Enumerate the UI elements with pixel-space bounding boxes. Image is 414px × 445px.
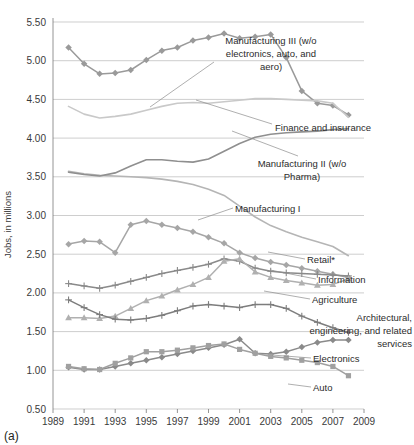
y-tick-label: 1.00 [27,365,47,376]
series-label-manufacturing-2-line2: Pharma) [284,171,320,182]
y-tick-label: 1.50 [27,326,47,337]
y-tick-label: 3.50 [27,171,47,182]
data-point [268,354,273,359]
data-point [330,337,337,344]
leader-lines [150,62,316,387]
line-chart: 0.501.001.502.002.503.003.504.004.505.00… [0,0,414,445]
data-point [113,361,118,366]
series-label-auto: Auto [313,382,333,393]
data-point [143,357,150,364]
x-tick-label: 2001 [228,416,251,427]
data-point [206,343,211,348]
y-tick-label: 2.00 [27,287,47,298]
x-tick-label: 1999 [197,416,220,427]
series-9 [66,341,351,378]
series-label-retail: Retail* [307,254,335,265]
x-axis-tick-labels: 1989199119931995199719992001200320052007… [42,416,376,427]
data-point [330,364,335,369]
y-tick-label: 5.00 [27,55,47,66]
data-point [205,234,212,241]
x-axis-ticks [53,409,364,413]
label-leader-line [198,208,233,220]
data-point [82,366,87,371]
series-label-aer-line3: services [377,338,412,349]
series-line [69,99,349,118]
data-point [190,37,197,44]
y-tick-label: 4.00 [27,133,47,144]
data-point [143,218,150,225]
series-7 [65,336,351,373]
data-point [299,344,306,351]
x-tick-label: 1997 [166,416,189,427]
figure-panel: 0.501.001.502.002.503.003.504.004.505.00… [0,0,414,445]
x-tick-label: 2003 [260,416,283,427]
figure-caption: (a) [4,429,19,443]
data-point [283,262,290,269]
data-point [190,229,197,236]
data-point [175,348,180,353]
data-point [159,222,166,229]
series-1 [69,99,349,118]
data-point [252,255,259,262]
y-axis-tick-labels: 0.501.001.502.002.503.003.504.004.505.00… [27,17,47,415]
data-point [236,249,243,256]
series-label-manufacturing-3-line2: electronics, auto, and [226,48,316,59]
data-point [253,351,258,356]
series-line [69,221,349,278]
x-tick-label: 1991 [73,416,96,427]
y-tick-label: 4.50 [27,94,47,105]
data-point [299,358,304,363]
y-tick-label: 2.50 [27,249,47,260]
series-label-manufacturing-1: Manufacturing I [235,203,300,214]
series-label-electronics: Electronics [313,353,360,364]
data-point [174,44,181,51]
label-leader-line [196,100,272,124]
series-2 [69,171,349,255]
data-point [267,259,274,266]
y-tick-label: 0.50 [27,404,47,415]
y-tick-label: 5.50 [27,17,47,28]
y-axis-label: Jobs, in millions [2,191,13,258]
series-label-finance-and-insurance: Finance and insurance [275,122,371,133]
label-leader-line [268,252,305,259]
data-point [174,225,181,232]
data-point [65,241,72,248]
series-label-aer-line1: Architectural, [357,312,412,323]
label-leader-line [264,291,310,299]
data-point [190,345,195,350]
series-line [69,259,349,319]
data-point [159,47,166,54]
data-point [205,34,212,41]
series-label-manufacturing-2-line1: Manufacturing II (w/o [258,158,347,169]
data-point [237,347,242,352]
data-point [346,373,351,378]
data-point [159,349,164,354]
data-point [314,339,321,346]
x-tick-label: 1993 [104,416,127,427]
series-label-agriculture: Agriculture [312,294,357,305]
label-leader-line [288,384,311,387]
x-tick-label: 1995 [135,416,158,427]
series-line [69,171,349,255]
series-label-aer-line2: engineering, and related [310,325,412,336]
data-point [144,349,149,354]
data-point [128,355,133,360]
x-tick-label: 2005 [291,416,314,427]
data-point [221,341,226,346]
data-point [283,348,290,355]
data-point [112,70,119,77]
data-point [221,240,228,247]
data-point [97,367,102,372]
y-tick-label: 3.00 [27,210,47,221]
data-point [128,222,135,229]
x-tick-label: 2009 [353,416,376,427]
data-point [128,360,135,367]
data-point [66,364,71,369]
label-leader-line [150,62,214,107]
series-label-information: Information [318,274,366,285]
data-point [345,337,352,344]
series-label-manufacturing-3-line3: aero) [260,61,282,72]
data-point [159,354,166,361]
series-4 [65,218,351,281]
x-tick-label: 2007 [322,416,345,427]
